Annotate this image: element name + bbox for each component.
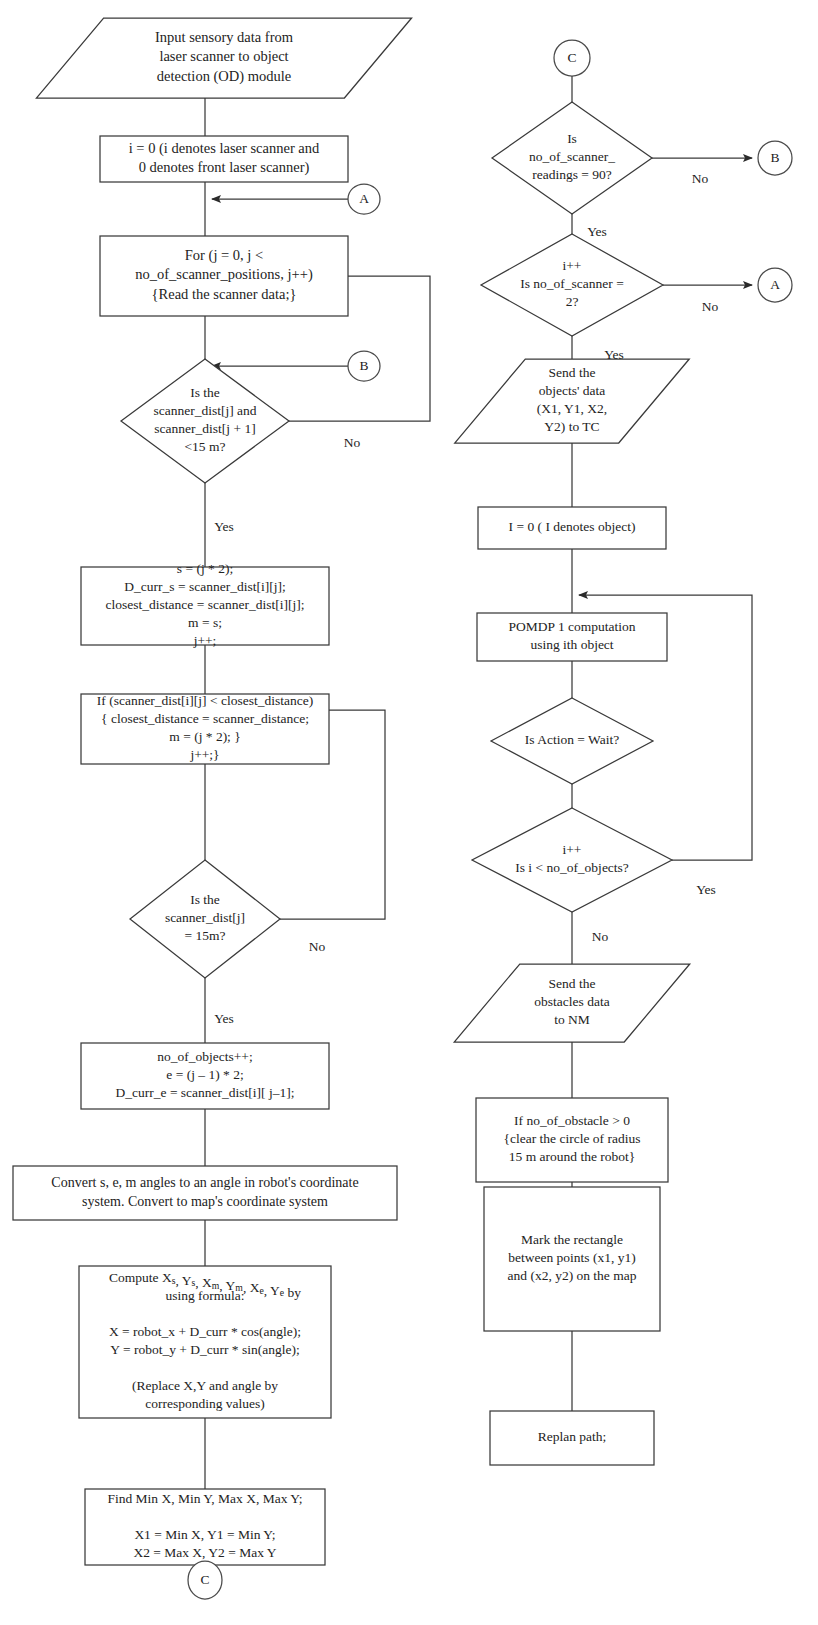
decision-no-of-scanner-2: i++Is no_of_scanner =2? bbox=[481, 234, 663, 336]
pomdp-computation-box-line-0: POMDP 1 computation bbox=[508, 619, 635, 634]
compute-coordinates-box-line-6: (Replace X,Y and angle by bbox=[132, 1378, 278, 1393]
decision-scanner-dist-equals-15m-line-1: scanner_dist[j] bbox=[165, 910, 245, 925]
for-scanner-positions-box-line-1: no_of_scanner_positions, j++) bbox=[135, 266, 313, 283]
decision-more-objects: i++Is i < no_of_objects? bbox=[472, 808, 672, 912]
assign-start-index-box-line-0: s = (j * 2); bbox=[177, 561, 233, 576]
update-closest-distance-box: If (scanner_dist[i][j] < closest_distanc… bbox=[81, 693, 329, 764]
for-scanner-positions-box-line-0: For (j = 0, j < bbox=[185, 247, 263, 264]
mark-rectangle-box-line-1: between points (x1, y1) bbox=[508, 1250, 635, 1265]
send-objects-data-parallelogram-line-3: Y2) to TC bbox=[544, 419, 599, 434]
for-scanner-positions-box-line-2: {Read the scanner data;} bbox=[152, 286, 297, 302]
init-object-index-box-line-0: I = 0 ( I denotes object) bbox=[509, 519, 636, 534]
init-scanner-index-box-line-0: i = 0 (i denotes laser scanner and bbox=[129, 140, 320, 157]
decision-more-objects-line-0: i++ bbox=[563, 842, 582, 857]
clear-circle-radius-box-line-2: 15 m around the robot} bbox=[509, 1149, 635, 1164]
init-scanner-index-box: i = 0 (i denotes laser scanner and0 deno… bbox=[100, 136, 348, 182]
send-obstacles-data-parallelogram-line-1: obstacles data bbox=[534, 994, 609, 1009]
decision-no-of-scanner-2-line-1: Is no_of_scanner = bbox=[520, 276, 624, 291]
replan-path-box: Replan path; bbox=[490, 1411, 654, 1465]
input-sensory-data-parallelogram-line-1: laser scanner to object bbox=[159, 48, 288, 64]
decision-scanner-dist-equals-15m: Is thescanner_dist[j]= 15m? bbox=[130, 860, 280, 978]
decision-is-action-wait: Is Action = Wait? bbox=[491, 698, 653, 784]
convert-angles-box: Convert s, e, m angles to an angle in ro… bbox=[13, 1166, 397, 1220]
update-closest-distance-box-line-1: { closest_distance = scanner_distance; bbox=[101, 711, 309, 726]
send-objects-data-parallelogram: Send theobjects' data(X1, Y1, X2,Y2) to … bbox=[455, 359, 690, 443]
decision-scanner-dist-less-15m-line-3: <15 m? bbox=[185, 439, 226, 454]
input-sensory-data-parallelogram-line-2: detection (OD) module bbox=[157, 68, 292, 85]
connector-circle-c-top-label: C bbox=[567, 50, 576, 65]
update-closest-distance-box-line-2: m = (j * 2); } bbox=[169, 729, 240, 744]
send-obstacles-data-parallelogram-line-0: Send the bbox=[549, 976, 596, 991]
find-min-max-box-line-2: X1 = Min X, Y1 = Min Y; bbox=[134, 1527, 275, 1542]
decision-scanner-dist-less-15m-line-2: scanner_dist[j + 1] bbox=[154, 421, 255, 436]
assign-start-index-box-line-4: j++; bbox=[193, 633, 217, 648]
compute-coordinates-box-line-1: using formula: bbox=[165, 1288, 244, 1303]
input-sensory-data-parallelogram: Input sensory data fromlaser scanner to … bbox=[36, 18, 411, 98]
init-object-index-box: I = 0 ( I denotes object) bbox=[478, 507, 666, 549]
edge-label-yes-scanner2: Yes bbox=[604, 347, 624, 362]
edge-label-no-eq15: No bbox=[309, 939, 326, 954]
decision-scanner-dist-less-15m-line-0: Is the bbox=[190, 385, 220, 400]
assign-start-index-box-line-1: D_curr_s = scanner_dist[i][j]; bbox=[124, 579, 285, 594]
for-scanner-positions-box: For (j = 0, j <no_of_scanner_positions, … bbox=[100, 236, 348, 316]
decision-more-objects-line-1: Is i < no_of_objects? bbox=[515, 860, 629, 875]
connector-circle-b-right-label: B bbox=[359, 358, 368, 373]
send-objects-data-parallelogram-line-2: (X1, Y1, X2, bbox=[537, 401, 607, 416]
decision-scanner-dist-equals-15m-line-0: Is the bbox=[190, 892, 220, 907]
flowchart-canvas: Input sensory data fromlaser scanner to … bbox=[0, 0, 818, 1625]
increment-objects-box-line-1: e = (j – 1) * 2; bbox=[166, 1067, 243, 1082]
decision-no-of-scanner-2-line-2: 2? bbox=[566, 294, 579, 309]
send-obstacles-data-parallelogram-line-2: to NM bbox=[554, 1012, 590, 1027]
connector-circle-c-bottom-label: C bbox=[200, 1572, 209, 1587]
edge-label-yes-moreobjects: Yes bbox=[696, 882, 716, 897]
find-min-max-box: Find Min X, Min Y, Max X, Max Y;X1 = Min… bbox=[85, 1489, 325, 1565]
connector-circle-a-target: A bbox=[758, 268, 792, 302]
compute-coordinates-box: Compute Xs, Ys, Xm, Ym, Xe, Ye byusing f… bbox=[79, 1266, 331, 1418]
decision-scanner-readings-90: Isno_of_scanner_readings = 90? bbox=[492, 102, 652, 214]
decision-no-of-scanner-2-line-0: i++ bbox=[563, 258, 582, 273]
edge-label-yes-readings90: Yes bbox=[587, 224, 607, 239]
decision-scanner-readings-90-line-0: Is bbox=[567, 131, 577, 146]
increment-objects-box-line-2: D_curr_e = scanner_dist[i][ j–1]; bbox=[116, 1085, 295, 1100]
edge-label-yes-eq15: Yes bbox=[214, 1011, 234, 1026]
mark-rectangle-box: Mark the rectanglebetween points (x1, y1… bbox=[484, 1187, 660, 1331]
connector-circle-b-target: B bbox=[758, 141, 792, 175]
increment-objects-box-line-0: no_of_objects++; bbox=[157, 1049, 252, 1064]
clear-circle-radius-box-line-1: {clear the circle of radius bbox=[504, 1131, 641, 1146]
decision-is-action-wait-line-0: Is Action = Wait? bbox=[525, 732, 619, 747]
connector-circle-a-right: A bbox=[348, 184, 380, 214]
convert-angles-box-line-1: system. Convert to map's coordinate syst… bbox=[82, 1194, 328, 1209]
find-min-max-box-line-0: Find Min X, Min Y, Max X, Max Y; bbox=[107, 1491, 302, 1506]
assign-start-index-box-line-3: m = s; bbox=[188, 615, 222, 630]
init-scanner-index-box-line-1: 0 denotes front laser scanner) bbox=[139, 159, 310, 176]
compute-coordinates-box-line-3: X = robot_x + D_curr * cos(angle); bbox=[109, 1324, 301, 1339]
decision-scanner-dist-less-15m: Is thescanner_dist[j] andscanner_dist[j … bbox=[121, 359, 289, 483]
convert-angles-box-line-0: Convert s, e, m angles to an angle in ro… bbox=[51, 1175, 358, 1190]
decision-scanner-dist-equals-15m-line-2: = 15m? bbox=[185, 928, 226, 943]
assign-start-index-box: s = (j * 2);D_curr_s = scanner_dist[i][j… bbox=[81, 561, 329, 648]
find-min-max-box-line-3: X2 = Max X, Y2 = Max Y bbox=[133, 1545, 276, 1560]
flowchart-svg: Input sensory data fromlaser scanner to … bbox=[0, 0, 818, 1625]
increment-objects-box: no_of_objects++;e = (j – 1) * 2;D_curr_e… bbox=[81, 1043, 329, 1109]
pomdp-computation-box: POMDP 1 computationusing ith object bbox=[477, 613, 667, 661]
clear-circle-radius-box-line-0: If no_of_obstacle > 0 bbox=[514, 1113, 630, 1128]
connector-circle-a-target-label: A bbox=[770, 277, 780, 292]
node-layer: Input sensory data fromlaser scanner to … bbox=[13, 18, 690, 1565]
connector-circle-c-bottom: C bbox=[188, 1561, 222, 1599]
input-sensory-data-parallelogram-line-0: Input sensory data from bbox=[155, 29, 294, 45]
pomdp-computation-box-line-1: using ith object bbox=[530, 637, 613, 652]
connector-circle-c-top: C bbox=[554, 40, 590, 76]
mark-rectangle-box-line-2: and (x2, y2) on the map bbox=[508, 1268, 637, 1283]
connector-circle-b-target-label: B bbox=[770, 150, 779, 165]
edge-label-no-readings90: No bbox=[692, 171, 709, 186]
compute-coordinates-box-line-7: corresponding values) bbox=[145, 1396, 265, 1411]
mark-rectangle-box-line-0: Mark the rectangle bbox=[521, 1232, 623, 1247]
connector-circle-a-right-label: A bbox=[359, 191, 369, 206]
update-closest-distance-box-line-0: If (scanner_dist[i][j] < closest_distanc… bbox=[97, 693, 313, 708]
send-obstacles-data-parallelogram: Send theobstacles datato NM bbox=[454, 964, 690, 1042]
edge-label-yes-dist15: Yes bbox=[214, 519, 234, 534]
replan-path-box-line-0: Replan path; bbox=[538, 1429, 607, 1444]
decision-scanner-readings-90-line-1: no_of_scanner_ bbox=[529, 149, 615, 164]
edge-label-no-dist15: No bbox=[344, 435, 361, 450]
clear-circle-radius-box: If no_of_obstacle > 0{clear the circle o… bbox=[476, 1098, 668, 1182]
